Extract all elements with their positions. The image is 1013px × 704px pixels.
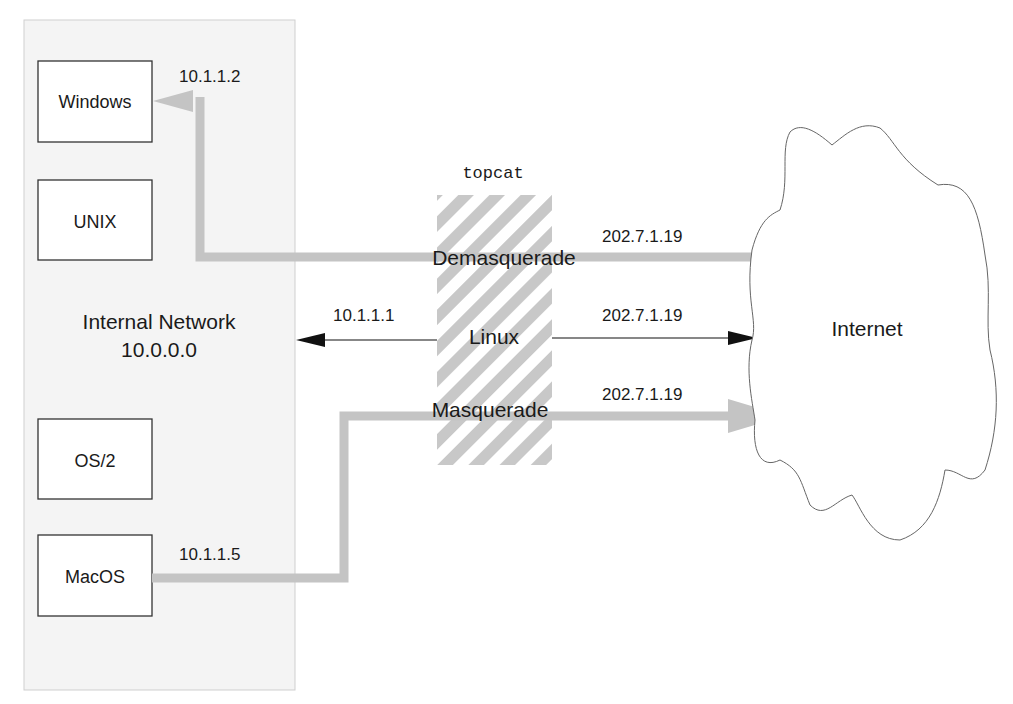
macos-ip: 10.1.1.5 bbox=[179, 545, 240, 564]
host-windows-label: Windows bbox=[58, 92, 131, 112]
host-macos[interactable]: MacOS bbox=[38, 535, 152, 616]
host-os2[interactable]: OS/2 bbox=[38, 419, 152, 499]
internal-network-title: Internal Network bbox=[83, 310, 236, 333]
gateway-external-ip: 202.7.1.19 bbox=[602, 306, 682, 325]
gateway-os-label: Linux bbox=[469, 325, 520, 348]
host-windows[interactable]: Windows bbox=[38, 61, 152, 142]
network-diagram: Windows UNIX OS/2 MacOS Internal Network… bbox=[0, 0, 1013, 704]
masquerade-label: Masquerade bbox=[432, 398, 549, 421]
host-unix-label: UNIX bbox=[73, 212, 116, 232]
host-os2-label: OS/2 bbox=[74, 451, 115, 471]
internal-link-arrowhead-icon bbox=[296, 333, 325, 347]
gateway-internal-ip: 10.1.1.1 bbox=[333, 306, 394, 325]
gateway-hostname: topcat bbox=[462, 164, 523, 183]
windows-ip: 10.1.1.2 bbox=[179, 67, 240, 86]
internal-network-address: 10.0.0.0 bbox=[121, 338, 197, 361]
demasquerade-label: Demasquerade bbox=[432, 246, 576, 269]
masquerade-ip: 202.7.1.19 bbox=[602, 385, 682, 404]
demasquerade-ip: 202.7.1.19 bbox=[602, 227, 682, 246]
host-macos-label: MacOS bbox=[65, 567, 125, 587]
host-unix[interactable]: UNIX bbox=[38, 180, 152, 260]
internet-label: Internet bbox=[831, 317, 902, 340]
